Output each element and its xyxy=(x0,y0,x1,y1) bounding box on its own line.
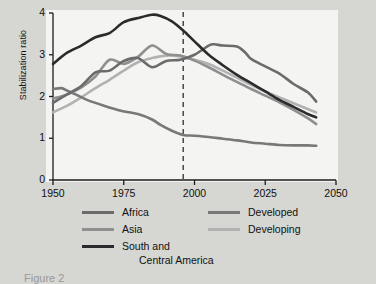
x-tick-label: 2025 xyxy=(243,187,287,199)
y-tick-label: 3 xyxy=(29,48,45,60)
y-tick-label: 4 xyxy=(29,6,45,18)
y-tick-label: 1 xyxy=(29,131,45,143)
legend-swatch xyxy=(82,211,114,214)
legend-label: Developed xyxy=(248,205,298,219)
y-tick-label: 2 xyxy=(29,90,45,102)
legend-label: Africa xyxy=(122,205,149,219)
legend-swatch xyxy=(208,211,240,214)
legend-label: Developing xyxy=(248,222,301,236)
legend-item[interactable]: Asia xyxy=(82,222,214,239)
legend-swatch xyxy=(208,228,240,231)
x-tick-label: 1950 xyxy=(31,187,75,199)
legend-swatch xyxy=(82,228,114,231)
series-developing xyxy=(53,56,316,113)
legend-item[interactable]: Developing xyxy=(208,222,301,239)
legend-label-line2: Central America xyxy=(122,253,214,267)
legend-column-left: AfricaAsiaSouth andCentral America xyxy=(82,205,214,270)
chart-legend: AfricaAsiaSouth andCentral America Devel… xyxy=(82,205,362,267)
y-axis-label: Stabilization ratio xyxy=(18,5,28,125)
x-tick-label: 2050 xyxy=(314,187,358,199)
legend-item[interactable]: Developed xyxy=(208,205,301,222)
legend-item[interactable]: South andCentral America xyxy=(82,239,214,270)
x-tick-label: 2000 xyxy=(173,187,217,199)
y-tick-label: 0 xyxy=(29,173,45,185)
legend-swatch xyxy=(82,245,114,248)
x-tick-label: 1975 xyxy=(102,187,146,199)
legend-column-right: DevelopedDeveloping xyxy=(208,205,301,239)
legend-label: Asia xyxy=(122,222,142,236)
legend-label: South andCentral America xyxy=(122,239,214,267)
figure-caption: Figure 2 xyxy=(24,272,64,284)
series-africa xyxy=(53,44,316,102)
legend-item[interactable]: Africa xyxy=(82,205,214,222)
